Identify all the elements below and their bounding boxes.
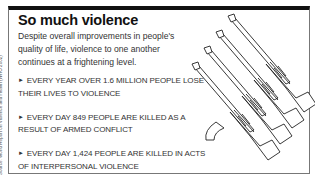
infobox-title: So much violence (18, 12, 138, 28)
bullet-icon: ► (18, 114, 24, 120)
bullet-icon: ► (18, 77, 24, 83)
bullet-icon: ► (18, 150, 24, 156)
fact-item: ►Every day 1,424 people are killed in ac… (18, 147, 213, 173)
rifles-illustration-icon (190, 12, 315, 162)
source-note: Source: World Report on Violence and Hea… (0, 5, 3, 175)
fact-item: ►Every day 849 people are killed as a re… (18, 111, 213, 137)
fact-list: ►Every year over 1.6 million people lose… (18, 74, 213, 184)
infobox-intro: Despite overall improvements in people's… (18, 30, 188, 69)
fact-item: ►Every year over 1.6 million people lose… (18, 74, 213, 100)
